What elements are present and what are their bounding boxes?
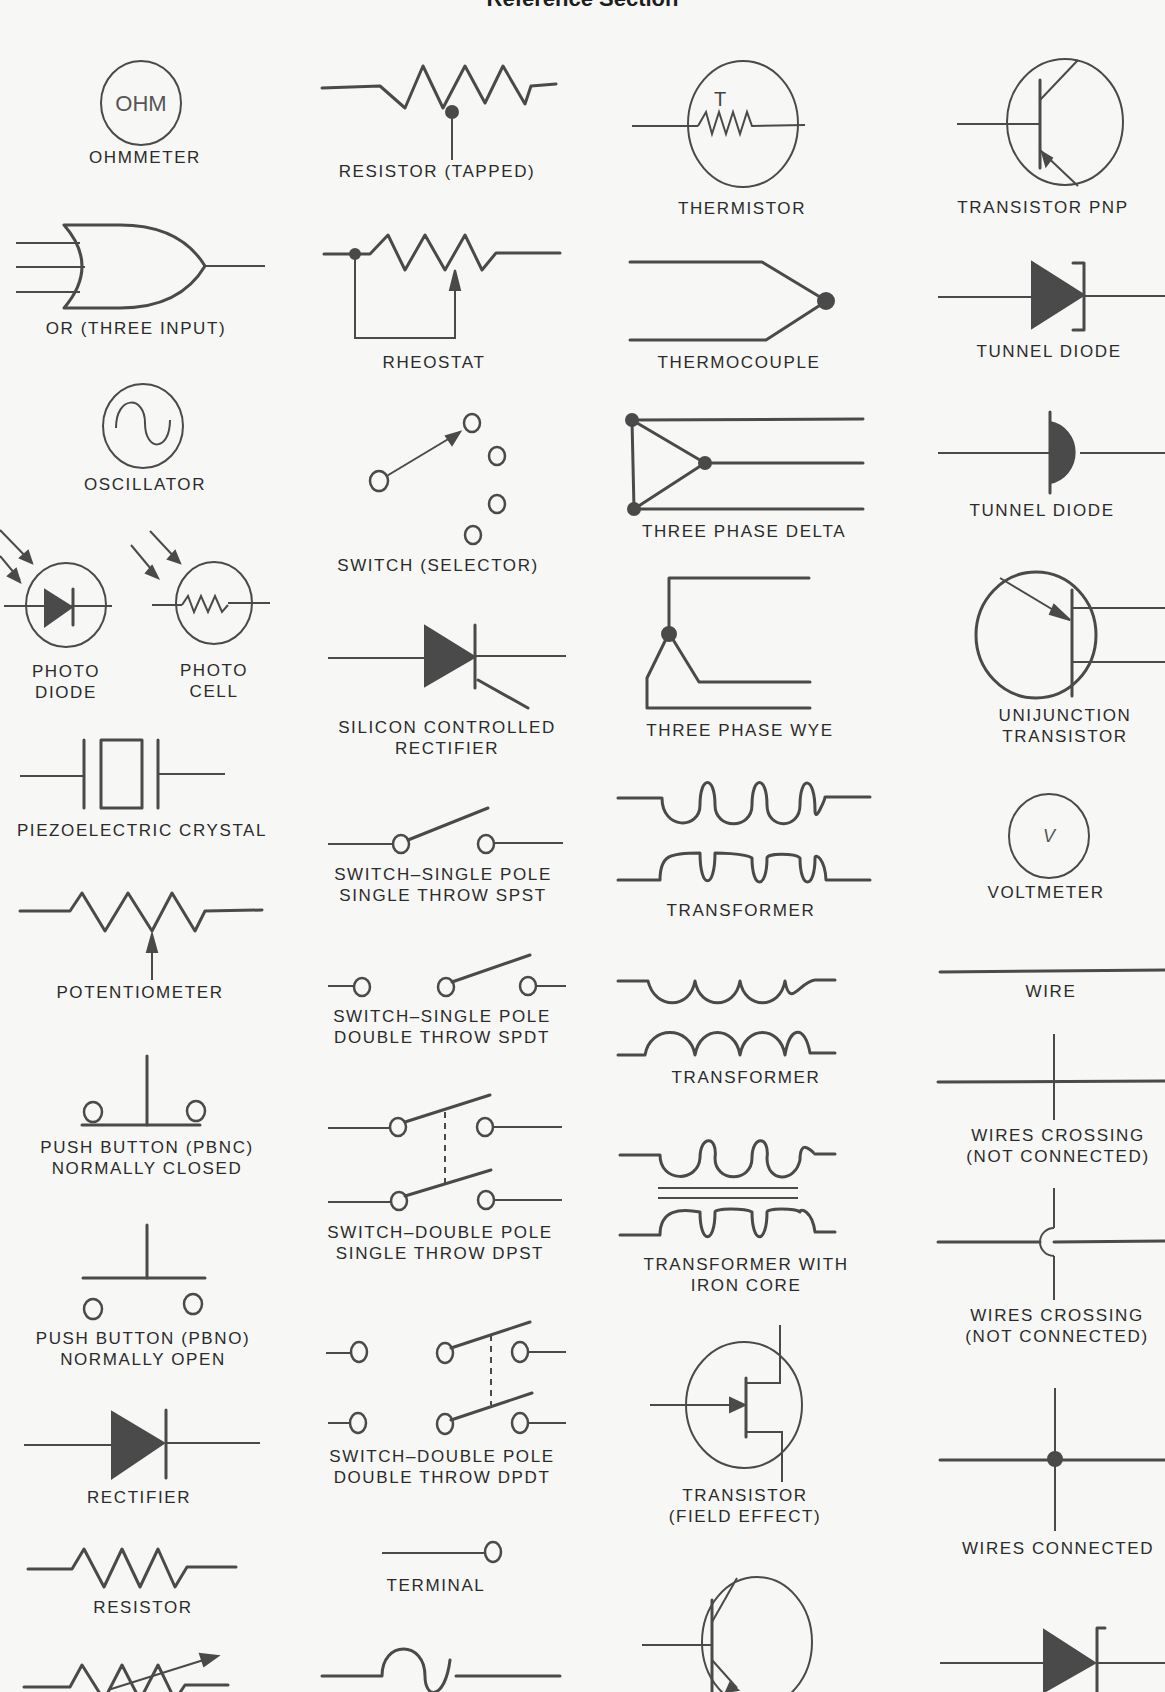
transistor-fet-label-line2: (FIELD EFFECT)	[669, 1506, 822, 1527]
transformer-1-symbol	[618, 783, 870, 883]
photo-cell-label: PHOTO CELL	[180, 660, 248, 702]
potentiometer-symbol	[20, 893, 262, 980]
scr-label-line1: SILICON CONTROLLED	[338, 717, 556, 738]
oscillator-label: OSCILLATOR	[84, 474, 206, 495]
wires-crossing-1-label-line2: (NOT CONNECTED)	[966, 1146, 1149, 1167]
switch-spdt-label-line1: SWITCH–SINGLE POLE	[333, 1006, 551, 1027]
wire-symbol	[940, 970, 1165, 972]
switch-selector-label: SWITCH (SELECTOR)	[337, 555, 539, 576]
switch-spdt-label-line2: DOUBLE THROW SPDT	[333, 1027, 551, 1048]
push-button-nc-symbol	[82, 1056, 205, 1125]
switch-dpdt-label-line2: DOUBLE THROW DPDT	[329, 1467, 554, 1488]
resistor-symbol	[28, 1549, 236, 1587]
photo-diode-label-line2: DIODE	[32, 682, 100, 703]
wires-connected-label: WIRES CONNECTED	[962, 1538, 1154, 1559]
three-phase-delta-label: THREE PHASE DELTA	[642, 521, 846, 542]
piezoelectric-crystal-label: PIEZOELECTRIC CRYSTAL	[17, 820, 267, 841]
thermocouple-label: THERMOCOUPLE	[658, 352, 821, 373]
transistor-fet-label: TRANSISTOR (FIELD EFFECT)	[669, 1485, 822, 1527]
wires-crossing-1-label-line1: WIRES CROSSING	[966, 1125, 1149, 1146]
three-phase-wye-label: THREE PHASE WYE	[646, 720, 833, 741]
schematic-symbols-canvas: OHM T	[0, 0, 1165, 1692]
pbnc-label-line1: PUSH BUTTON (PBNC)	[40, 1137, 254, 1158]
unijunction-transistor-label: UNIJUNCTION TRANSISTOR	[999, 705, 1132, 747]
switch-dpst-symbol	[328, 1095, 562, 1210]
transformer-iron-core-label-line2: IRON CORE	[643, 1275, 848, 1296]
switch-spst-symbol	[328, 808, 563, 853]
voltmeter-symbol: V	[1009, 794, 1089, 878]
ohmmeter-symbol: OHM	[101, 61, 181, 145]
resistor-label: RESISTOR	[93, 1597, 192, 1618]
wires-crossing-2-symbol	[938, 1188, 1165, 1300]
photo-cell-label-line1: PHOTO	[180, 660, 248, 681]
or-gate-symbol	[16, 225, 265, 308]
transistor-pnp-symbol	[957, 59, 1123, 186]
three-phase-delta-symbol	[626, 414, 863, 515]
scr-label-line2: RECTIFIER	[338, 738, 556, 759]
switch-dpdt-symbol	[326, 1322, 566, 1434]
rectifier-label: RECTIFIER	[87, 1487, 191, 1508]
transistor-fet-symbol	[650, 1325, 802, 1482]
photo-diode-label: PHOTO DIODE	[32, 661, 100, 703]
switch-spdt-symbol	[328, 955, 566, 996]
inductor-symbol-partial	[322, 1649, 560, 1692]
rheostat-label: RHEOSTAT	[383, 352, 486, 373]
wire-label: WIRE	[1026, 981, 1077, 1002]
transistor-fet-label-line1: TRANSISTOR	[669, 1485, 822, 1506]
thermistor-symbol: T	[632, 61, 805, 187]
tunnel-diode-2-symbol	[938, 412, 1165, 493]
wires-crossing-2-label-line1: WIRES CROSSING	[965, 1305, 1148, 1326]
wires-crossing-2-label: WIRES CROSSING (NOT CONNECTED)	[965, 1305, 1148, 1347]
variable-resistor-symbol-partial	[24, 1654, 228, 1692]
piezoelectric-crystal-symbol	[20, 740, 225, 808]
scr-label: SILICON CONTROLLED RECTIFIER	[338, 717, 556, 759]
switch-spst-label-line2: SINGLE THROW SPST	[334, 885, 552, 906]
wires-crossing-1-symbol	[938, 1034, 1165, 1120]
photo-diode-symbol	[0, 530, 112, 647]
push-button-nc-label: PUSH BUTTON (PBNC) NORMALLY CLOSED	[40, 1137, 254, 1179]
transformer-iron-core-symbol	[620, 1141, 835, 1237]
switch-spst-label-line1: SWITCH–SINGLE POLE	[334, 864, 552, 885]
photo-cell-symbol	[131, 531, 270, 644]
transformer-iron-core-label-line1: TRANSFORMER WITH	[643, 1254, 848, 1275]
switch-dpdt-label-line1: SWITCH–DOUBLE POLE	[329, 1446, 554, 1467]
photo-diode-label-line1: PHOTO	[32, 661, 100, 682]
resistor-tapped-symbol	[322, 66, 556, 160]
push-button-no-label: PUSH BUTTON (PBNO) NORMALLY OPEN	[36, 1328, 251, 1370]
oscillator-symbol	[103, 384, 183, 468]
transformer-2-symbol	[618, 980, 835, 1055]
thermocouple-symbol	[630, 262, 834, 340]
switch-dpst-label-line2: SINGLE THROW DPST	[327, 1243, 552, 1264]
terminal-label: TERMINAL	[387, 1575, 486, 1596]
scr-symbol	[328, 625, 566, 708]
wires-connected-symbol	[940, 1388, 1165, 1531]
switch-selector-symbol	[370, 414, 505, 544]
pbnc-label-line2: NORMALLY CLOSED	[40, 1158, 254, 1179]
switch-dpst-label: SWITCH–DOUBLE POLE SINGLE THROW DPST	[327, 1222, 552, 1264]
v-glyph: V	[1043, 826, 1057, 846]
rectifier-symbol	[24, 1410, 260, 1478]
transformer-iron-core-label: TRANSFORMER WITH IRON CORE	[643, 1254, 848, 1296]
unijunction-label-line1: UNIJUNCTION	[999, 705, 1132, 726]
tunnel-diode-1-symbol	[938, 262, 1165, 330]
tunnel-diode-1-label: TUNNEL DIODE	[976, 341, 1121, 362]
transformer-2-label: TRANSFORMER	[672, 1067, 821, 1088]
zener-diode-symbol-partial	[940, 1628, 1165, 1692]
push-button-no-symbol	[83, 1225, 205, 1319]
photo-cell-label-line2: CELL	[180, 681, 248, 702]
rheostat-symbol	[324, 235, 560, 338]
potentiometer-label: POTENTIOMETER	[56, 982, 223, 1003]
transformer-1-label: TRANSFORMER	[667, 900, 816, 921]
pbno-label-line2: NORMALLY OPEN	[36, 1349, 251, 1370]
unijunction-transistor-symbol	[976, 572, 1165, 698]
transistor-npn-symbol-partial	[642, 1577, 812, 1692]
switch-dpst-label-line1: SWITCH–DOUBLE POLE	[327, 1222, 552, 1243]
switch-dpdt-label: SWITCH–DOUBLE POLE DOUBLE THROW DPDT	[329, 1446, 554, 1488]
voltmeter-label: VOLTMETER	[987, 882, 1104, 903]
switch-spst-label: SWITCH–SINGLE POLE SINGLE THROW SPST	[334, 864, 552, 906]
ohmmeter-label: OHMMETER	[89, 147, 201, 168]
terminal-symbol	[382, 1542, 501, 1562]
pbno-label-line1: PUSH BUTTON (PBNO)	[36, 1328, 251, 1349]
switch-spdt-label: SWITCH–SINGLE POLE DOUBLE THROW SPDT	[333, 1006, 551, 1048]
or-three-input-label: OR (THREE INPUT)	[46, 318, 226, 339]
